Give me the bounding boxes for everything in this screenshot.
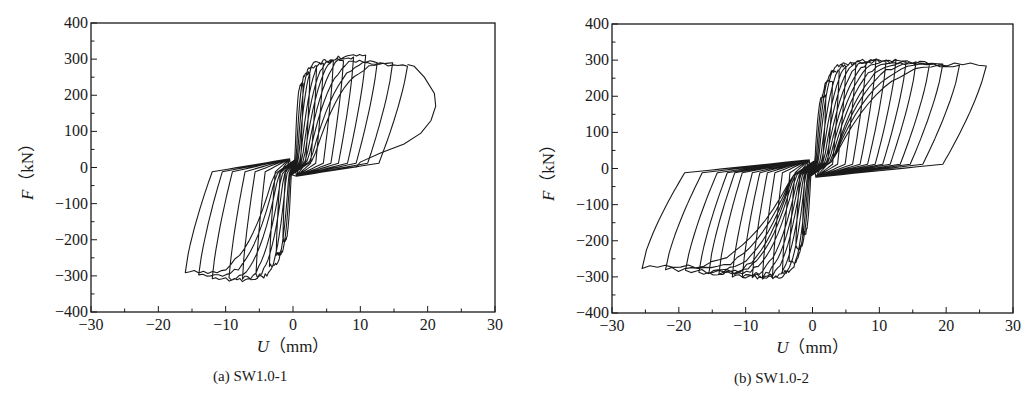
y-tick-label: −300	[55, 267, 88, 284]
x-tick-label: 0	[809, 317, 817, 334]
x-axis-title: U（mm）	[776, 338, 849, 357]
y-tick-label: 300	[585, 51, 609, 68]
y-tick-label: −100	[576, 196, 609, 213]
figure-caption-b: (b) SW1.0-2	[734, 370, 809, 387]
x-tick-label: 20	[420, 316, 436, 333]
x-axis-title: U（mm）	[257, 337, 330, 356]
x-axis: −30−20−100102030	[599, 307, 1021, 334]
x-tick-label: 10	[871, 317, 887, 334]
x-tick-label: 30	[487, 316, 503, 333]
x-axis: −30−20−100102030	[78, 306, 503, 333]
x-tick-label: 20	[938, 317, 954, 334]
y-tick-label: 400	[64, 14, 88, 31]
chart-panel-a: −30−20−1001020304003002001000−100−200−30…	[0, 0, 517, 407]
x-tick-label: −20	[666, 317, 691, 334]
y-axis-title: F（kN）	[18, 135, 37, 201]
y-tick-label: 300	[64, 50, 88, 67]
y-tick-label: 100	[585, 123, 609, 140]
y-axis-title: F（kN）	[539, 136, 558, 202]
y-tick-label: 200	[585, 87, 609, 104]
x-tick-label: 0	[289, 316, 297, 333]
y-tick-label: 0	[601, 160, 609, 177]
x-tick-label: −20	[146, 316, 171, 333]
y-tick-label: 200	[64, 86, 88, 103]
y-tick-label: −300	[576, 268, 609, 285]
x-tick-label: 30	[1005, 317, 1021, 334]
x-tick-label: 10	[352, 316, 368, 333]
y-tick-label: −100	[55, 195, 88, 212]
x-tick-label: −10	[733, 317, 758, 334]
y-tick-label: −400	[55, 303, 88, 320]
hysteresis-curves	[642, 59, 986, 279]
y-tick-label: −200	[55, 231, 88, 248]
y-tick-label: −400	[576, 304, 609, 321]
figure-caption-a: (a) SW1.0-1	[213, 368, 287, 385]
y-tick-label: 100	[64, 122, 88, 139]
hysteresis-chart-a: −30−20−1001020304003002001000−100−200−30…	[0, 0, 517, 407]
hysteresis-loop-path	[185, 55, 407, 282]
y-tick-label: −200	[576, 232, 609, 249]
hysteresis-chart-b: −30−20−1001020304003002001000−100−200−30…	[517, 0, 1034, 407]
hysteresis-curves	[185, 55, 435, 282]
hysteresis-loop-path	[642, 59, 986, 279]
y-tick-label: 0	[80, 159, 88, 176]
y-tick-label: 400	[585, 15, 609, 32]
x-tick-label: −10	[213, 316, 238, 333]
chart-panel-b: −30−20−1001020304003002001000−100−200−30…	[517, 0, 1034, 407]
